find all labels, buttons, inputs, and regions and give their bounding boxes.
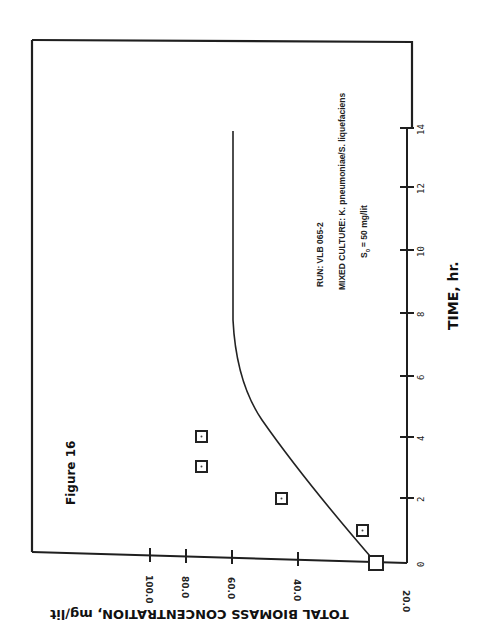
y-axis-title: TOTAL BIOMASS CONCENTRATION, mg/lit bbox=[50, 607, 349, 622]
point-t0 bbox=[369, 556, 383, 570]
tick-t8: 8 bbox=[416, 312, 426, 317]
tick-20: 20.0 bbox=[401, 590, 411, 612]
tick-t14: 14 bbox=[416, 124, 426, 135]
tick-t6: 6 bbox=[416, 375, 426, 380]
tick-100: 100.0 bbox=[144, 575, 154, 603]
biomass-tick-labels: 100.0 80.0 60.0 40.0 20.0 bbox=[144, 575, 411, 612]
tick-t0: 0 bbox=[416, 562, 426, 567]
plot-frame-top-right bbox=[32, 40, 412, 128]
data-points bbox=[196, 431, 383, 570]
tick-80: 80.0 bbox=[180, 576, 190, 598]
tick-t4: 4 bbox=[416, 436, 426, 441]
chart: 100.0 80.0 60.0 40.0 20.0 0 2 4 6 8 10 1… bbox=[0, 0, 483, 643]
biomass-axis bbox=[32, 552, 407, 563]
tick-t2: 2 bbox=[416, 497, 426, 502]
tick-t12: 12 bbox=[416, 183, 426, 194]
tick-40: 40.0 bbox=[292, 579, 302, 601]
figure-label: Figure 16 bbox=[64, 441, 78, 505]
model-curve bbox=[233, 131, 376, 563]
x-axis-title: TIME, hr. bbox=[445, 261, 461, 330]
tick-60: 60.0 bbox=[226, 577, 236, 599]
annotations: RUN: VLB 065-2 MIXED CULTURE: K. pneumon… bbox=[315, 92, 371, 290]
annot-run: RUN: VLB 065-2 bbox=[315, 222, 325, 287]
time-tick-labels: 0 2 4 6 8 10 12 14 bbox=[416, 124, 426, 567]
annot-culture: MIXED CULTURE: K. pneumoniae/S. liquefac… bbox=[337, 92, 347, 290]
annot-s0: S0= 50 mg/lit bbox=[359, 205, 371, 258]
tick-t10: 10 bbox=[416, 246, 426, 257]
